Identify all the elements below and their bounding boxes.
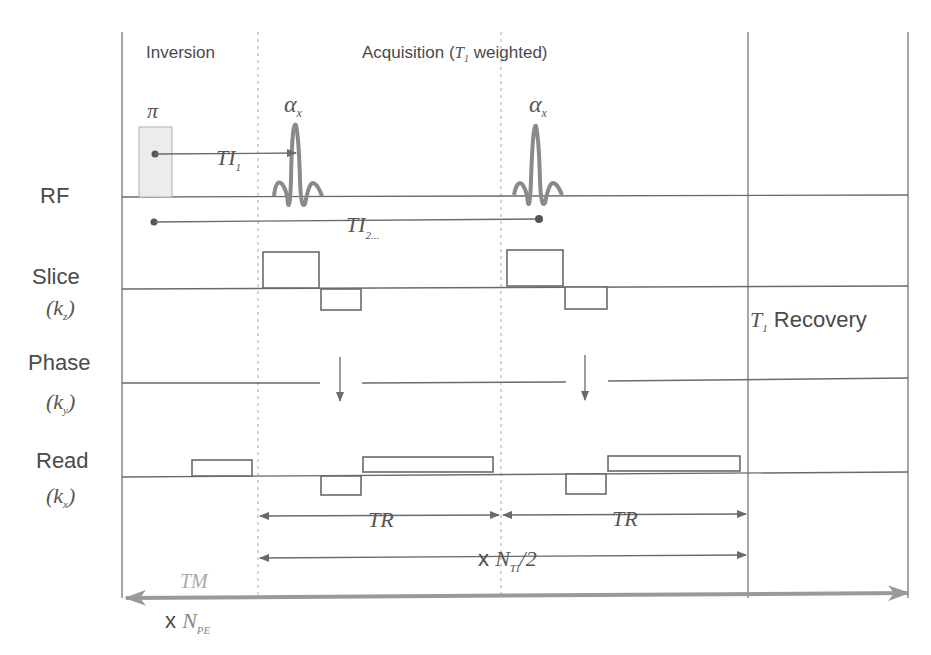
tr-label-1: TR xyxy=(368,507,394,532)
tm-arrow xyxy=(126,593,908,598)
read-row-label: Read xyxy=(36,448,89,473)
read-spoiler-lobe xyxy=(192,460,252,476)
readout-lobe-2 xyxy=(608,456,740,471)
ti2-label: TI2... xyxy=(346,212,379,241)
phase-baseline-3 xyxy=(608,378,908,381)
t1-recovery-label: T1 Recovery xyxy=(750,307,867,334)
read-prephase-lobe-1 xyxy=(321,476,361,495)
tm-label: TM xyxy=(180,570,209,592)
pulse-sequence-diagram: Inversion Acquisition (T1 weighted) RF S… xyxy=(0,0,931,655)
ti2-end-dot xyxy=(535,215,543,223)
nti-label: x NTI/2 xyxy=(478,546,537,574)
phase-baseline-2 xyxy=(362,382,566,383)
rf-baseline xyxy=(122,195,908,197)
alpha-pulse-2-label: αx xyxy=(529,91,548,120)
slice-select-lobe-2 xyxy=(507,250,563,286)
read-prephase-lobe-2 xyxy=(566,474,606,494)
inversion-pulse-symbol: π xyxy=(147,98,159,123)
inversion-header: Inversion xyxy=(146,43,215,62)
ti1-label: TI1 xyxy=(216,145,241,173)
inversion-pulse-block xyxy=(139,127,172,197)
slice-axis-label: (kz) xyxy=(46,295,75,322)
slice-select-lobe-1 xyxy=(263,252,319,288)
rf-row-label: RF xyxy=(40,183,69,208)
alpha-pulse-2 xyxy=(514,126,562,204)
npe-label: x NPE xyxy=(165,608,211,636)
phase-axis-label: (ky) xyxy=(46,389,75,416)
slice-row-label: Slice xyxy=(32,264,80,289)
alpha-pulse-1 xyxy=(274,125,322,205)
read-axis-label: (kx) xyxy=(46,483,75,510)
slice-rephase-lobe-2 xyxy=(565,287,607,309)
slice-rephase-lobe-1 xyxy=(321,289,361,310)
acquisition-header: Acquisition (T1 weighted) xyxy=(362,43,548,64)
alpha-pulse-1-label: αx xyxy=(284,91,303,120)
readout-lobe-1 xyxy=(363,457,493,472)
tr-label-2: TR xyxy=(612,506,638,531)
phase-row-label: Phase xyxy=(28,350,90,375)
